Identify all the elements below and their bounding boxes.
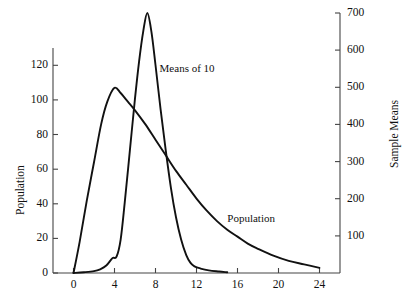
- x-tick-label: 16: [226, 279, 250, 291]
- y2-tick-label: 100: [347, 230, 379, 242]
- chart-container: 04812162024 020406080100120 100200300400…: [0, 0, 403, 298]
- series-line-population: [74, 88, 320, 273]
- y-tick-label: 20: [16, 232, 48, 244]
- x-axis-ticks: [74, 268, 320, 273]
- right-axis-ticks: [335, 13, 340, 236]
- left-axis-title: Population: [14, 165, 26, 215]
- x-tick-label: 20: [267, 279, 291, 291]
- y-tick-label: 80: [16, 129, 48, 141]
- x-tick-label: 0: [62, 279, 86, 291]
- x-tick-label: 12: [185, 279, 209, 291]
- right-axis-title: Sample Means: [388, 100, 400, 168]
- y-tick-label: 120: [16, 59, 48, 71]
- y2-tick-label: 700: [347, 7, 379, 19]
- x-tick-label: 4: [103, 279, 127, 291]
- series-annotation: Means of 10: [160, 62, 215, 74]
- x-tick-label: 8: [144, 279, 168, 291]
- chart-plot-area: [0, 0, 403, 298]
- y2-tick-label: 200: [347, 193, 379, 205]
- y-tick-label: 100: [16, 94, 48, 106]
- y2-tick-label: 300: [347, 156, 379, 168]
- y2-tick-label: 500: [347, 81, 379, 93]
- y2-tick-label: 600: [347, 44, 379, 56]
- left-axis-ticks: [53, 65, 58, 273]
- y-tick-label: 0: [16, 267, 48, 279]
- x-tick-label: 24: [308, 279, 332, 291]
- y2-tick-label: 400: [347, 118, 379, 130]
- series-annotation: Population: [227, 212, 275, 224]
